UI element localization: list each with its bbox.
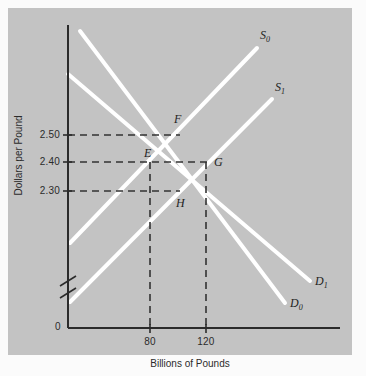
- point-label-e: E: [144, 146, 151, 161]
- x-tick-label-80: 80: [130, 336, 170, 347]
- x-axis-title: Billions of Pounds: [110, 358, 270, 369]
- x-tick-label-120: 120: [186, 336, 226, 347]
- demand-curve-d1: [68, 74, 310, 281]
- point-label-h: H: [176, 196, 185, 211]
- point-label-g: G: [214, 155, 223, 170]
- supply-curve-s1: [70, 99, 272, 302]
- curve-label-s1-subscript: 1: [281, 87, 285, 96]
- curve-label-s0: S0: [260, 28, 270, 44]
- y-axis-title: Dollars per Pound: [13, 96, 24, 216]
- supply-demand-figure: 2.50 2.40 2.30 0 80 120 Dollars per Poun…: [0, 0, 366, 376]
- curve-label-d1-subscript: 1: [324, 281, 328, 290]
- origin-label: 0: [55, 321, 61, 332]
- y-tick-label-240: 2.40: [26, 156, 60, 167]
- curve-label-d1-text: D: [315, 274, 324, 288]
- curve-label-d0-subscript: 0: [299, 303, 303, 312]
- curve-label-s0-subscript: 0: [266, 35, 270, 44]
- point-label-f: F: [174, 112, 181, 127]
- y-tick-label-250: 2.50: [26, 129, 60, 140]
- curve-label-d0-text: D: [290, 296, 299, 310]
- curve-label-s1: S1: [275, 80, 285, 96]
- y-tick-label-230: 2.30: [26, 185, 60, 196]
- curve-label-d1: D1: [315, 274, 328, 290]
- axis-tick-marks: [63, 135, 206, 333]
- curve-label-d0: D0: [290, 296, 303, 312]
